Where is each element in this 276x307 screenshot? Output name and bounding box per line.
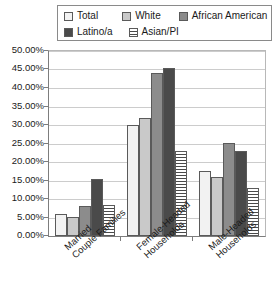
x-axis-tick-mark [192,237,193,241]
bar [55,214,67,236]
legend-row: Total White African American [64,9,271,23]
y-axis-tick-label: 20.00% [0,156,44,165]
legend-row: Latino/a Asian/PI [64,25,271,39]
y-axis-tick-label: 0.00% [0,230,44,239]
bar [199,171,211,236]
y-axis-tick-label: 5.00% [0,212,44,221]
legend-swatch-white-icon [122,12,131,21]
y-axis-tick-label: 40.00% [0,82,44,91]
legend-entry-latino: Latino/a [64,27,113,37]
plot-area [48,50,266,237]
legend-swatch-african-american-icon [179,12,188,21]
legend-entry-asian-pi: Asian/PI [129,27,179,37]
bar [127,125,139,236]
bar [139,118,151,236]
y-axis-tick-label: 50.00% [0,45,44,54]
legend-entry-african-american: African American [179,11,268,21]
legend-label-total: Total [77,11,98,21]
legend-label-african-american: African American [192,11,268,21]
bar [151,73,163,236]
y-axis-tick-label: 35.00% [0,101,44,110]
bar [211,177,223,236]
legend-swatch-total-icon [64,12,73,21]
y-axis-tick-label: 15.00% [0,175,44,184]
y-axis-tick-label: 30.00% [0,119,44,128]
chart-legend: Total White African American Latino/a As… [57,5,272,41]
y-axis-tick-label: 45.00% [0,63,44,72]
legend-entry-white: White [122,11,161,21]
legend-label-white: White [135,11,161,21]
legend-swatch-latino-icon [64,28,73,37]
y-axis-tick-label: 25.00% [0,138,44,147]
legend-entry-total: Total [64,11,98,21]
legend-swatch-asian-pi-icon [129,28,138,37]
y-axis-tick-label: 10.00% [0,193,44,202]
legend-label-asian-pi: Asian/PI [142,27,179,37]
legend-label-latino: Latino/a [77,27,113,37]
bar-chart: Total White African American Latino/a As… [0,0,276,307]
x-axis-tick-mark [120,237,121,241]
